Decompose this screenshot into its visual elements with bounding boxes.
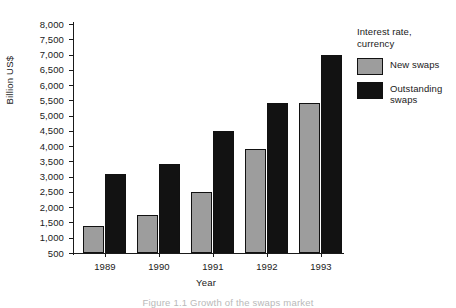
bar-group (191, 24, 235, 253)
y-tick-label: 5,500 (0, 96, 64, 106)
y-tick-label: 5,000 (0, 111, 64, 121)
x-tick-label-1993: 1993 (291, 261, 351, 272)
y-tick (69, 100, 74, 101)
y-tick (69, 131, 74, 132)
y-tick-label: 6,500 (0, 65, 64, 75)
bar-new-swaps-1992 (245, 149, 266, 253)
y-tick-label: 7,500 (0, 35, 64, 45)
y-tick (69, 85, 74, 86)
bar-outstanding-swaps-1990 (159, 164, 180, 253)
y-tick-label: 1,000 (0, 233, 64, 243)
y-tick (69, 253, 74, 254)
y-tick (69, 146, 74, 147)
bar-new-swaps-1989 (83, 226, 104, 253)
y-tick-label: 2,500 (0, 187, 64, 197)
legend-item-outstanding-swaps: Outstanding swaps (357, 82, 453, 105)
y-tick-label: 2,000 (0, 203, 64, 213)
y-tick (69, 116, 74, 117)
x-tick (105, 253, 106, 257)
x-tick (321, 253, 322, 257)
x-tick-label-1989: 1989 (75, 261, 135, 272)
y-tick-label: 3,500 (0, 157, 64, 167)
bar-group (83, 24, 127, 253)
legend-label-new-swaps: New swaps (390, 58, 439, 70)
legend-title-line2: currency (357, 38, 453, 50)
x-axis-line (73, 253, 344, 254)
x-tick-label-1992: 1992 (237, 261, 297, 272)
y-tick (69, 161, 74, 162)
y-tick (69, 39, 74, 40)
y-tick (69, 55, 74, 56)
bar-group (299, 24, 343, 253)
bar-group (245, 24, 289, 253)
chart-legend: Interest rate, currency New swaps Outsta… (357, 26, 453, 112)
x-tick (267, 253, 268, 257)
x-tick-label-1990: 1990 (129, 261, 189, 272)
y-tick (69, 222, 74, 223)
y-tick (69, 207, 74, 208)
y-tick (69, 24, 74, 25)
legend-title-line1: Interest rate, (357, 26, 453, 38)
y-tick (69, 238, 74, 239)
y-axis-line (73, 22, 74, 255)
y-tick-label: 4,000 (0, 142, 64, 152)
x-tick (159, 253, 160, 257)
legend-title: Interest rate, currency (357, 26, 453, 49)
y-tick (69, 177, 74, 178)
bar-new-swaps-1990 (137, 215, 158, 253)
legend-item-new-swaps: New swaps (357, 58, 453, 75)
y-tick-label: 8,000 (0, 20, 64, 30)
bar-outstanding-swaps-1993 (321, 55, 342, 253)
y-tick-label: 3,000 (0, 172, 64, 182)
x-tick (213, 253, 214, 257)
bar-new-swaps-1991 (191, 192, 212, 253)
x-axis-title: Year (176, 277, 236, 288)
legend-label-outstanding-swaps: Outstanding swaps (390, 82, 442, 105)
bar-outstanding-swaps-1992 (267, 103, 288, 253)
y-tick-label: 500 (0, 249, 64, 259)
y-tick (69, 70, 74, 71)
bar-outstanding-swaps-1991 (213, 131, 234, 253)
y-tick-label: 4,500 (0, 126, 64, 136)
y-tick (69, 192, 74, 193)
y-tick-label: 7,000 (0, 50, 64, 60)
legend-swatch-new-swaps (357, 58, 383, 75)
figure-caption: Figure 1.1 Growth of the swaps market (0, 297, 456, 308)
y-tick-label: 1,500 (0, 218, 64, 228)
bar-new-swaps-1993 (299, 103, 320, 253)
x-tick-label-1991: 1991 (183, 261, 243, 272)
bar-group (137, 24, 181, 253)
legend-swatch-outstanding-swaps (357, 82, 383, 99)
bar-outstanding-swaps-1989 (105, 174, 126, 253)
y-tick-label: 6,000 (0, 81, 64, 91)
